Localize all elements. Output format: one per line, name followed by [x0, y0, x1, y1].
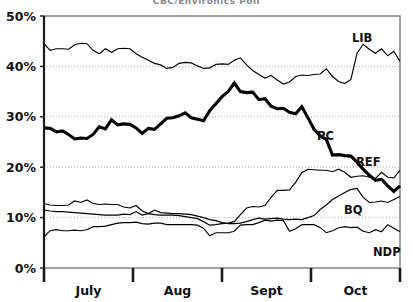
series-line-lib — [44, 43, 400, 84]
y-axis-tick-label: 10% — [6, 210, 36, 225]
x-axis-tick-label: July — [75, 283, 102, 298]
series-label-pc: PC — [317, 129, 334, 143]
series-label-ref: REF — [356, 155, 381, 169]
plot-border — [44, 16, 400, 268]
y-axis-labels: 0%10%20%30%40%50% — [6, 9, 36, 276]
series-label-lib: LIB — [352, 31, 372, 45]
x-axis-tick-label: Oct — [343, 283, 367, 298]
y-axis-tick-label: 30% — [6, 109, 36, 124]
y-axis-tick-label: 20% — [6, 160, 36, 175]
y-axis-tick-label: 50% — [6, 9, 36, 24]
plot-frame — [44, 16, 400, 269]
x-axis-tick-label: Sept — [250, 283, 282, 298]
gridlines-group — [44, 66, 400, 217]
x-axis-labels: JulyAugSeptOct — [75, 283, 368, 298]
chart-canvas: 0%10%20%30%40%50% JulyAugSeptOct LIBPCRE… — [0, 0, 413, 302]
x-axis-dividers — [44, 268, 400, 282]
x-axis-tick-label: Aug — [164, 283, 192, 298]
series-line-pc — [44, 83, 400, 191]
series-label-ndp: NDP — [373, 245, 401, 259]
y-axis-tick-label: 40% — [6, 59, 36, 74]
series-label-bq: BQ — [344, 203, 363, 217]
y-axis-tick-label: 0% — [15, 261, 37, 276]
poll-line-chart: CBC/Environics Poll 0%10%20%30%40%50% Ju… — [0, 0, 413, 302]
